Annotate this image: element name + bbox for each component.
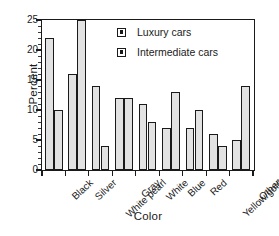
bar-other-luxury-cars xyxy=(232,140,241,170)
bar-yellow-gold-intermediate-cars xyxy=(218,146,227,170)
legend-swatch-icon xyxy=(117,48,126,57)
x-axis-category-label: Blue xyxy=(185,177,207,199)
x-axis-tick xyxy=(252,171,253,176)
bar-white-luxury-cars xyxy=(139,104,148,170)
y-axis-tick-label: 0 xyxy=(12,165,38,175)
y-axis-tick-label: 15 xyxy=(12,75,38,85)
legend-item-label: Luxury cars xyxy=(137,26,191,38)
x-axis-category-label: Black xyxy=(69,177,94,202)
y-axis-tick-label: 20 xyxy=(12,45,38,55)
bar-white-pearl-intermediate-cars xyxy=(101,146,110,170)
x-axis-title: Color xyxy=(40,210,256,222)
x-axis-category-label: Red xyxy=(208,177,229,198)
x-axis-tick xyxy=(135,171,136,176)
chart-legend: Luxury carsIntermediate cars xyxy=(117,22,237,62)
x-axis-category-label: Other xyxy=(257,177,279,202)
bar-silver-intermediate-cars xyxy=(77,20,86,170)
bar-other-intermediate-cars xyxy=(241,86,250,170)
x-axis-tick xyxy=(41,171,42,176)
x-axis-category-label: Silver xyxy=(93,177,119,202)
x-axis-tick xyxy=(159,171,160,176)
legend-item: Luxury cars xyxy=(117,22,237,42)
legend-item-label: Intermediate cars xyxy=(137,46,218,58)
bar-blue-intermediate-cars xyxy=(171,92,180,170)
bar-black-luxury-cars xyxy=(45,38,54,170)
y-axis-tick-label: 5 xyxy=(12,135,38,145)
x-axis-tick xyxy=(88,171,89,176)
bar-silver-luxury-cars xyxy=(68,74,77,170)
bar-blue-luxury-cars xyxy=(162,128,171,170)
bar-black-intermediate-cars xyxy=(54,110,63,170)
y-axis-tick-label: 25 xyxy=(12,15,38,25)
bar-white-intermediate-cars xyxy=(148,122,157,170)
x-axis-tick xyxy=(112,171,113,176)
x-axis-tick xyxy=(65,171,66,176)
bar-red-intermediate-cars xyxy=(195,110,204,170)
bar-chart-figure: Percent 0510152025 BlackSilverWhite pear… xyxy=(0,0,279,236)
bar-gray-luxury-cars xyxy=(115,98,124,170)
y-axis-tick-label: 10 xyxy=(12,105,38,115)
bar-yellow-gold-luxury-cars xyxy=(209,134,218,170)
legend-swatch-icon xyxy=(117,28,126,37)
bar-red-luxury-cars xyxy=(186,128,195,170)
bar-white-pearl-luxury-cars xyxy=(92,86,101,170)
bar-gray-intermediate-cars xyxy=(124,98,133,170)
x-axis-tick xyxy=(206,171,207,176)
x-axis-tick xyxy=(182,171,183,176)
x-axis-tick xyxy=(229,171,230,176)
legend-item: Intermediate cars xyxy=(117,42,237,62)
